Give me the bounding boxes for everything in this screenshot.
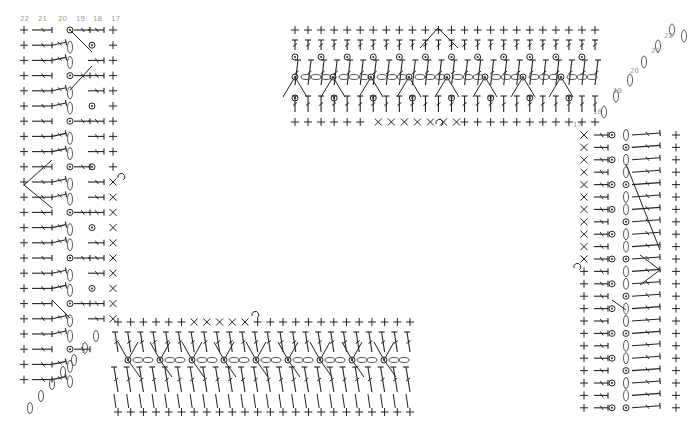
row-number-label: 20 bbox=[630, 67, 639, 75]
top-horizontal-strip bbox=[283, 24, 687, 126]
row-number-label: 22 bbox=[20, 15, 29, 23]
right-row-labels: 222120191817 bbox=[573, 32, 673, 129]
left-vertical-strip bbox=[20, 26, 125, 414]
crochet-chart: 222120191817 222120191817 bbox=[0, 0, 695, 438]
row-number-label: 21 bbox=[38, 15, 47, 23]
row-number-label: 17 bbox=[111, 15, 120, 23]
row-number-label: 19 bbox=[76, 15, 85, 23]
bottom-horizontal-strip bbox=[111, 311, 414, 416]
row-number-label: 20 bbox=[58, 15, 67, 23]
row-number-label: 18 bbox=[593, 108, 602, 116]
row-number-label: 18 bbox=[93, 15, 102, 23]
right-vertical-strip bbox=[574, 130, 680, 412]
left-row-labels: 222120191817 bbox=[20, 15, 120, 23]
